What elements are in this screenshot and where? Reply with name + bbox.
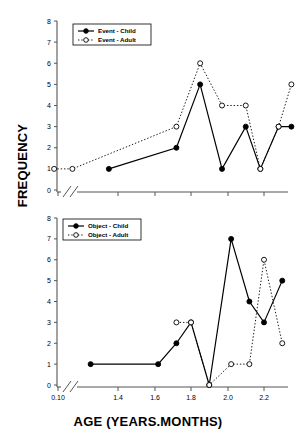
data-point-open-circle	[247, 362, 252, 367]
y-tick-label: 6	[47, 256, 51, 263]
y-tick-label: 5	[47, 277, 51, 284]
axis-break-slash-2	[70, 186, 78, 197]
x-tick-label: 1.4	[113, 394, 123, 401]
data-point-open-circle	[289, 82, 294, 87]
legend-label: Object - Child	[88, 222, 128, 229]
panel-event: 012345678Event - ChildEvent - Adult	[47, 18, 294, 197]
legend-label: Event - Adult	[98, 36, 136, 43]
x-tick-label: 2.2	[259, 394, 269, 401]
data-point-filled-circle	[106, 166, 111, 171]
y-tick-label: 4	[47, 102, 51, 109]
legend-label: Object - Adult	[88, 231, 128, 238]
data-point-open-circle	[258, 166, 263, 171]
data-point-open-circle	[276, 124, 281, 129]
axis-break-slash-2	[70, 381, 78, 392]
data-point-filled-circle	[174, 145, 179, 150]
data-point-filled-circle	[289, 124, 294, 129]
data-point-filled-circle	[229, 236, 234, 241]
series-line-object---child	[91, 239, 283, 385]
y-axis-label: FREQUENCY	[15, 106, 30, 226]
y-tick-label: 8	[47, 215, 51, 222]
data-point-filled-circle	[156, 362, 161, 367]
series-line-event---adult	[54, 63, 291, 169]
x-tick-label: 1.8	[186, 394, 196, 401]
data-point-filled-circle	[88, 362, 93, 367]
legend-label: Event - Child	[98, 27, 136, 34]
y-tick-label: 1	[47, 361, 51, 368]
data-point-filled-circle	[280, 278, 285, 283]
legend-marker-filled-circle	[74, 224, 79, 229]
panel-object: 0123456780.101.41.61.82.02.2Object - Chi…	[47, 215, 288, 401]
y-tick-label: 1	[47, 165, 51, 172]
chart-canvas: 012345678Event - ChildEvent - Adult01234…	[0, 0, 296, 443]
data-point-filled-circle	[198, 82, 203, 87]
x-tick-label: 0.10	[51, 394, 65, 401]
data-point-filled-circle	[247, 299, 252, 304]
y-tick-label: 5	[47, 81, 51, 88]
data-point-open-circle	[280, 341, 285, 346]
figure-root: FREQUENCY AGE (YEARS.MONTHS) 012345678Ev…	[0, 0, 296, 443]
data-point-open-circle	[52, 166, 57, 171]
data-point-filled-circle	[243, 124, 248, 129]
y-tick-label: 0	[47, 187, 51, 194]
y-tick-label: 3	[47, 319, 51, 326]
y-tick-label: 8	[47, 18, 51, 25]
y-tick-label: 2	[47, 340, 51, 347]
data-point-open-circle	[220, 103, 225, 108]
data-point-open-circle	[70, 166, 75, 171]
data-point-open-circle	[174, 320, 179, 325]
legend-marker-open-circle	[74, 233, 79, 238]
data-point-open-circle	[229, 362, 234, 367]
data-point-filled-circle	[262, 320, 267, 325]
y-tick-label: 6	[47, 60, 51, 67]
data-point-filled-circle	[174, 341, 179, 346]
data-point-open-circle	[189, 320, 194, 325]
series-line-event---child	[109, 84, 292, 169]
y-tick-label: 0	[47, 382, 51, 389]
data-point-open-circle	[174, 124, 179, 129]
y-tick-label: 7	[47, 39, 51, 46]
data-point-open-circle	[262, 257, 267, 262]
legend-marker-filled-circle	[84, 29, 89, 34]
x-tick-label: 2.0	[223, 394, 233, 401]
data-point-open-circle	[243, 103, 248, 108]
y-tick-label: 4	[47, 298, 51, 305]
y-tick-label: 7	[47, 235, 51, 242]
x-tick-label: 1.6	[150, 394, 160, 401]
x-axis-label: AGE (YEARS.MONTHS)	[0, 414, 296, 429]
data-point-open-circle	[207, 383, 212, 388]
legend-marker-open-circle	[84, 38, 89, 43]
y-tick-label: 3	[47, 123, 51, 130]
data-point-filled-circle	[220, 166, 225, 171]
data-point-open-circle	[198, 61, 203, 66]
y-tick-label: 2	[47, 144, 51, 151]
axis-break-slash-1	[63, 186, 71, 197]
axis-break-slash-1	[63, 381, 71, 392]
